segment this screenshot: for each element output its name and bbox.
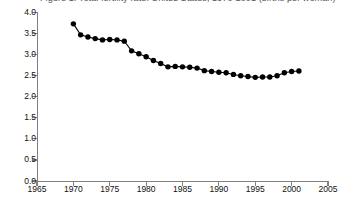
- data-point: [187, 65, 192, 70]
- data-point: [158, 61, 163, 66]
- data-point: [114, 37, 119, 42]
- plot-area: 0.00.51.01.52.02.53.03.54.0 196519701975…: [0, 0, 340, 210]
- data-point: [296, 68, 301, 73]
- data-point: [85, 34, 90, 39]
- data-point: [289, 69, 294, 74]
- data-point: [202, 68, 207, 73]
- data-point: [78, 32, 83, 37]
- data-point: [260, 74, 265, 79]
- data-point: [151, 58, 156, 63]
- data-point: [209, 69, 214, 74]
- data-series: [0, 0, 340, 210]
- data-point: [136, 51, 141, 56]
- data-point: [180, 64, 185, 69]
- data-point: [245, 74, 250, 79]
- data-point: [274, 73, 279, 78]
- data-point: [253, 75, 258, 80]
- data-point: [216, 70, 221, 75]
- data-point: [93, 36, 98, 41]
- data-point: [71, 21, 76, 26]
- data-point: [100, 37, 105, 42]
- data-point: [282, 70, 287, 75]
- data-point: [129, 48, 134, 53]
- data-point: [238, 73, 243, 78]
- data-point: [231, 72, 236, 77]
- data-point: [223, 70, 228, 75]
- series-line: [73, 24, 299, 78]
- data-point: [165, 64, 170, 69]
- data-point: [194, 65, 199, 70]
- data-point: [143, 54, 148, 59]
- data-point: [122, 38, 127, 43]
- data-point: [173, 64, 178, 69]
- data-point: [107, 37, 112, 42]
- chart-container: Figure 1. Total fertility rate: United S…: [0, 0, 340, 210]
- data-point: [267, 74, 272, 79]
- series-markers: [71, 21, 302, 80]
